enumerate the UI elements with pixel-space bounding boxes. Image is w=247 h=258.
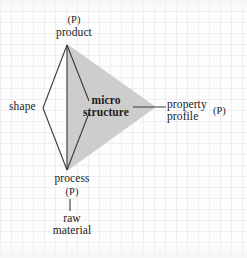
- node-label-process: process: [44, 173, 100, 185]
- raw-material-line-2: material: [37, 225, 107, 237]
- edge-shape-process: [43, 108, 67, 170]
- property-phase-tag: (P): [213, 105, 237, 116]
- node-label-shape: shape: [9, 101, 53, 113]
- process-phase-tag: (P): [56, 186, 88, 197]
- node-label-product: product: [47, 27, 101, 39]
- product-phase-tag: (P): [58, 14, 90, 25]
- microstructure-line-2: structure: [80, 107, 132, 119]
- edge-product-shape: [43, 45, 67, 108]
- property-line-2: profile: [167, 111, 215, 123]
- node-label-microstructure: micro structure: [80, 95, 132, 119]
- diagram-canvas: (P) product shape micro structure proper…: [0, 0, 247, 258]
- node-label-raw-material: raw material: [37, 213, 107, 237]
- node-label-property-profile: property profile: [167, 99, 215, 123]
